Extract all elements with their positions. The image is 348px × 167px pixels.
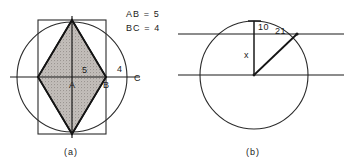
panel-a-diagram: A B C 5 4 AB = 5 BC = 4 (a) [0, 0, 174, 167]
label-length-5: 5 [82, 65, 88, 75]
intersection-dot-icon [295, 32, 298, 35]
radius-segment [254, 34, 297, 75]
label-point-c: C [134, 73, 141, 83]
label-length-21: 21 [275, 26, 286, 36]
panel-b-diagram: 10 21 x (b) [174, 0, 348, 167]
caption-a: (a) [64, 147, 78, 157]
label-length-4: 4 [117, 64, 123, 74]
label-point-b: B [103, 80, 110, 90]
figure-root: A B C 5 4 AB = 5 BC = 4 (a) 10 21 x (b) [0, 0, 348, 167]
label-point-a: A [69, 80, 76, 90]
legend-bc: BC = 4 [126, 23, 160, 33]
label-unknown-x: x [244, 50, 249, 60]
legend-ab: AB = 5 [126, 9, 160, 19]
caption-b: (b) [246, 147, 260, 157]
center-dot-icon [253, 74, 256, 77]
label-length-10: 10 [258, 22, 269, 32]
